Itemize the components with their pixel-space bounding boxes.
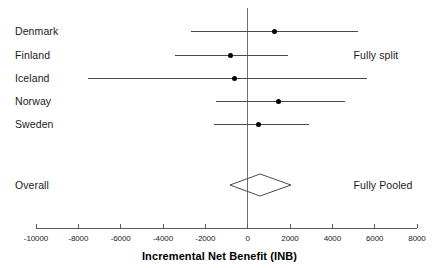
forest-plot-figure: Denmark Finland Iceland Norway Sweden Ov…: [0, 0, 439, 268]
study-label-sweden: Sweden: [15, 119, 54, 130]
axis-tick-0: [36, 224, 37, 228]
axis-tick-label-6: 2000: [281, 235, 298, 243]
axis-tick-label-5: 0: [245, 235, 249, 243]
study-label-finland: Finland: [15, 50, 50, 61]
axis-tick-9: [417, 224, 418, 228]
annotation-fully-pooled: Fully Pooled: [354, 180, 413, 191]
axis-tick-label-8: 6000: [366, 235, 383, 243]
axis-tick-label-7: 4000: [324, 235, 341, 243]
point-estimate-denmark: [272, 29, 277, 34]
plot-area: Denmark Finland Iceland Norway Sweden Ov…: [0, 0, 439, 268]
point-estimate-iceland: [232, 76, 237, 81]
study-label-iceland: Iceland: [15, 73, 50, 84]
axis-tick-label-0: -10000: [24, 235, 48, 243]
study-label-overall: Overall: [15, 180, 49, 191]
annotation-fully-split: Fully split: [354, 50, 399, 61]
ci-line-sweden: [214, 124, 309, 125]
axis-tick-6: [290, 224, 291, 228]
point-estimate-norway: [276, 99, 281, 104]
ci-line-iceland: [88, 78, 368, 79]
x-axis-title: Incremental Net Benefit (INB): [0, 250, 439, 262]
axis-tick-2: [120, 224, 121, 228]
axis-tick-label-2: -6000: [111, 235, 131, 243]
point-estimate-sweden: [256, 122, 261, 127]
study-label-denmark: Denmark: [15, 26, 58, 37]
axis-tick-label-4: -2000: [195, 235, 215, 243]
axis-tick-3: [163, 224, 164, 228]
axis-tick-label-1: -8000: [68, 235, 88, 243]
point-estimate-finland: [228, 53, 233, 58]
axis-tick-label-9: 8000: [408, 235, 425, 243]
axis-tick-7: [332, 224, 333, 228]
axis-tick-8: [374, 224, 375, 228]
x-axis-line: [36, 228, 417, 229]
overall-diamond-marker: [228, 172, 293, 198]
axis-tick-5: [247, 224, 248, 228]
study-label-norway: Norway: [15, 96, 51, 107]
axis-tick-label-3: -4000: [153, 235, 173, 243]
axis-tick-1: [78, 224, 79, 228]
axis-tick-4: [205, 224, 206, 228]
